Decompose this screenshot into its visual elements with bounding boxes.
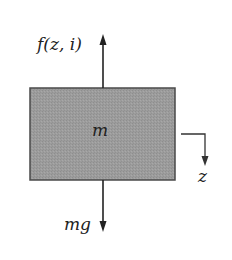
axis-label: z	[198, 168, 207, 185]
upward-force-label: f(z, i)	[37, 36, 82, 53]
weight-label: mg	[64, 216, 91, 233]
downward-weight-arrow-icon	[100, 180, 107, 232]
upward-force-arrow-icon	[100, 34, 107, 88]
z-axis-arrow-icon	[181, 134, 209, 166]
mass-label: m	[92, 122, 108, 139]
free-body-diagram: f(z, i) m z mg	[0, 0, 232, 260]
